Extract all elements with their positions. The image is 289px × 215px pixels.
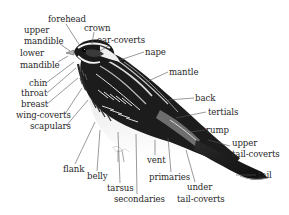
label-primaries: primaries	[149, 172, 190, 182]
label-forehead: forehead	[48, 14, 86, 24]
label-crown: crown	[84, 23, 111, 33]
label-wing-coverts: wing-coverts	[16, 110, 71, 120]
label-vent: vent	[147, 155, 166, 165]
label-upper-mandible-line2: mandible	[24, 36, 64, 46]
label-mantle: mantle	[169, 67, 199, 77]
label-under-tail-coverts-line2: tail-coverts	[177, 194, 225, 204]
label-belly: belly	[87, 171, 107, 181]
label-nape: nape	[145, 47, 166, 57]
label-rump: rump	[206, 125, 229, 135]
label-tertials: tertials	[208, 107, 238, 117]
bird-topography-diagram: forehead crown upper mandible ear-covert…	[0, 0, 289, 215]
label-under-tail-coverts-line1: under	[187, 182, 212, 192]
label-upper-tail-coverts-line1: upper	[232, 138, 257, 148]
label-lower-mandible-line1: lower	[20, 48, 44, 58]
label-tail: tail	[258, 170, 272, 180]
label-upper-tail-coverts-line2: tail-coverts	[232, 149, 280, 159]
label-back: back	[195, 93, 215, 103]
label-chin: chin	[29, 78, 47, 88]
label-upper-mandible-line1: upper	[24, 25, 49, 35]
label-secondaries: secondaries	[114, 194, 165, 204]
label-flank: flank	[63, 164, 84, 174]
label-lower-mandible-line2: mandible	[20, 60, 60, 70]
label-ear-coverts: ear-coverts	[97, 35, 145, 45]
label-tarsus: tarsus	[107, 183, 133, 193]
label-throat: throat	[21, 88, 47, 98]
label-scapulars: scapulars	[30, 121, 71, 131]
label-breast: breast	[21, 99, 48, 109]
